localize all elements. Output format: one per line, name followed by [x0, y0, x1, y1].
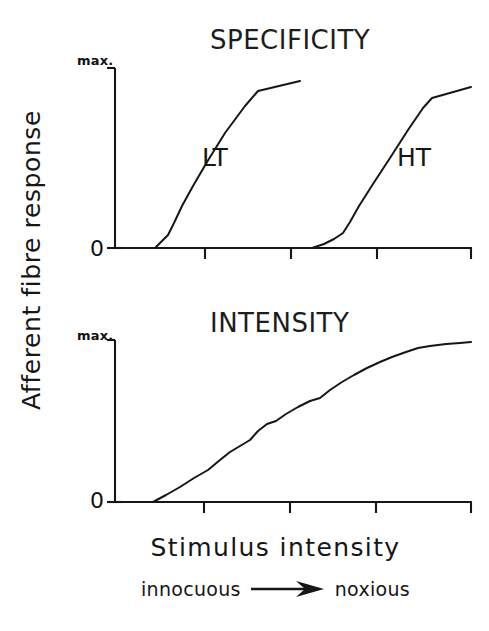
curve-lt: [115, 81, 300, 248]
x-axis-ticks-intensity: [204, 502, 471, 513]
y-axis-label-container: Afferent fibre response: [0, 0, 62, 520]
x-axis-label: Stimulus intensity: [62, 533, 489, 562]
plot-intensity: [62, 300, 489, 520]
curve-intensity: [115, 342, 471, 502]
curve-ht: [115, 87, 471, 248]
y-axis-label: Afferent fibre response: [17, 110, 46, 410]
x-axis-sublabel-right: noxious: [335, 578, 410, 600]
figure-root: Afferent fibre response SPECIFICITY max.…: [0, 0, 489, 631]
panel-specificity: SPECIFICITY max. 0 LT HT: [62, 18, 489, 288]
panel-intensity: INTENSITY max. 0: [62, 300, 489, 520]
right-arrow-icon: [250, 580, 326, 598]
x-axis-ticks-specificity: [205, 248, 471, 259]
x-axis-sublabel: innocuous noxious: [62, 578, 489, 600]
plot-specificity: [62, 18, 489, 288]
x-axis-sublabel-left: innocuous: [141, 578, 241, 600]
